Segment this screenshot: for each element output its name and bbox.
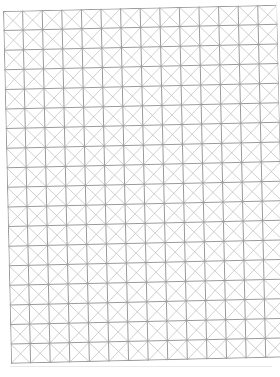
page-bottom-shadow: [10, 366, 272, 367]
grid-paper-sheet: [3, 5, 280, 364]
scanned-page: [0, 0, 280, 377]
diagonal-grid-pattern: [3, 5, 280, 364]
page-right-shadow: [276, 2, 277, 22]
